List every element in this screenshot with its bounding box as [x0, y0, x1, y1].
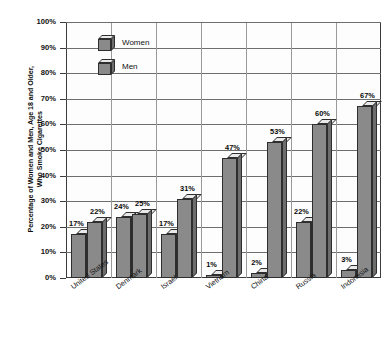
- cube-3d-icon: [98, 35, 113, 49]
- category-separator: [246, 23, 247, 278]
- y-axis-tick-label: 40%: [24, 172, 56, 180]
- bar-men-israel: [177, 194, 192, 278]
- bar-women-russia: [296, 217, 311, 278]
- y-axis-tick-label: 20%: [24, 223, 56, 231]
- y-axis-tick-label: 100%: [24, 18, 56, 26]
- bar-value-label: 25%: [130, 199, 156, 208]
- bar-value-label: 53%: [265, 127, 291, 136]
- gridline: [66, 124, 381, 125]
- category-separator: [291, 23, 292, 278]
- gridline: [66, 22, 381, 23]
- legend-label-women: Women: [122, 38, 149, 47]
- bar-men-china: [267, 137, 282, 278]
- bar-women-denmark: [116, 212, 131, 278]
- y-axis-tick-label: 30%: [24, 197, 56, 205]
- cube-3d-icon: [98, 59, 113, 73]
- bar-men-indonesia: [357, 101, 372, 278]
- bar-value-label: 22%: [289, 207, 315, 216]
- y-axis-tick-label: 50%: [24, 146, 56, 154]
- y-axis-tick-label: 60%: [24, 120, 56, 128]
- bar-value-label: 22%: [85, 207, 111, 216]
- bar-women-united-states: [71, 229, 86, 278]
- y-axis-tick-label: 90%: [24, 44, 56, 52]
- y-axis-tick-label: 80%: [24, 69, 56, 77]
- y-axis-tick-mark: [60, 278, 66, 279]
- y-axis-tick-label: 10%: [24, 248, 56, 256]
- legend-label-men: Men: [122, 62, 138, 71]
- bar-women-israel: [161, 229, 176, 278]
- bar-men-vietnam: [222, 153, 237, 278]
- category-separator: [336, 23, 337, 278]
- legend: Women Men: [98, 31, 218, 79]
- smoking-prevalence-bar-chart: Percentage of Women and Men, Age 18 and …: [0, 0, 391, 344]
- bar-value-label: 31%: [175, 184, 201, 193]
- gridline: [66, 99, 381, 100]
- bar-value-label: 2%: [244, 258, 270, 267]
- y-axis-tick-label: 0%: [24, 274, 56, 282]
- y-axis-tick-label: 70%: [24, 95, 56, 103]
- bar-value-label: 17%: [64, 219, 90, 228]
- bar-value-label: 3%: [334, 255, 360, 264]
- bar-value-label: 60%: [310, 109, 336, 118]
- bar-value-label: 47%: [220, 143, 246, 152]
- bar-value-label: 67%: [355, 91, 381, 100]
- bar-men-russia: [312, 119, 327, 278]
- bar-value-label: 1%: [199, 260, 225, 269]
- bar-value-label: 17%: [154, 219, 180, 228]
